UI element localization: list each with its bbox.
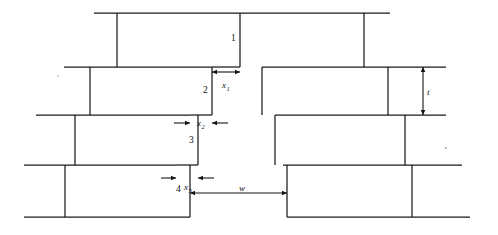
course-label-course-1: 1 — [231, 33, 236, 43]
scan-speck — [445, 147, 447, 149]
figure-canvas: x1x2x3wt 1234 — [0, 0, 498, 235]
scan-speck — [57, 75, 58, 76]
dimension-subscript-x1: 1 — [227, 85, 230, 92]
course-label-course-3: 3 — [189, 135, 194, 145]
dimension-label-w: w — [239, 183, 245, 193]
course-label-course-4: 4 — [176, 184, 181, 194]
stepped-crack-diagram: x1x2x3wt 1234 — [0, 0, 498, 235]
course-label-course-2: 2 — [203, 85, 208, 95]
